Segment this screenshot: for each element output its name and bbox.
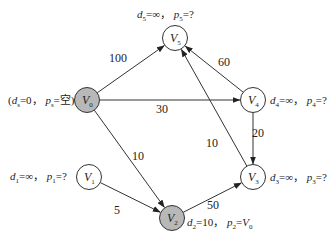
edge-weight-label: 20	[252, 126, 264, 140]
node-annotation-v4: d4=∞， p4=?	[270, 94, 327, 109]
edge-weight-label: 5	[114, 203, 120, 217]
node-v5: V5	[163, 26, 188, 51]
edge-weight-label: 60	[218, 55, 230, 69]
node-annotation-v0: (ds=0， ps=空)	[8, 93, 75, 109]
edge-v0-v4: 30	[100, 100, 241, 116]
node-v0: V0	[75, 88, 100, 113]
node-v4: V4	[241, 88, 266, 113]
edge-v1-v2: 5	[100, 183, 160, 217]
nodes-layer: V0V1V2V3V4V5	[75, 26, 266, 231]
node-v3: V3	[241, 165, 266, 190]
edge-arrow	[185, 46, 243, 92]
node-annotation-v3: d3=∞， p3=?	[270, 171, 327, 186]
edge-v4-v5: 60	[185, 46, 243, 92]
edge-arrow	[94, 110, 164, 207]
edge-v0-v5: 100	[97, 45, 164, 92]
edge-arrow	[97, 45, 164, 92]
edge-v4-v3: 20	[252, 113, 264, 165]
edge-v0-v2: 10	[94, 110, 164, 207]
dijkstra-graph-diagram: 1003010602010550 V0V1V2V3V4V5 (ds=0， ps=…	[0, 0, 336, 244]
edge-weight-label: 50	[207, 198, 219, 212]
node-annotation-v5: d5=∞， p5=?	[137, 8, 194, 23]
node-annotation-v1: d1=∞， p1=?	[10, 170, 67, 185]
edge-weight-label: 10	[206, 136, 218, 150]
edge-arrow	[100, 183, 160, 213]
edge-weight-label: 10	[132, 149, 144, 163]
node-annotation-v2: d2=10， p2=V0	[187, 216, 253, 231]
node-v2: V2	[160, 206, 185, 231]
edge-v2-v3: 50	[183, 183, 241, 212]
edge-v3-v5: 10	[181, 49, 247, 166]
edge-weight-label: 30	[156, 102, 168, 116]
edges-layer: 1003010602010550	[94, 45, 264, 217]
edge-weight-label: 100	[109, 51, 127, 65]
node-v1: V1	[77, 165, 102, 190]
